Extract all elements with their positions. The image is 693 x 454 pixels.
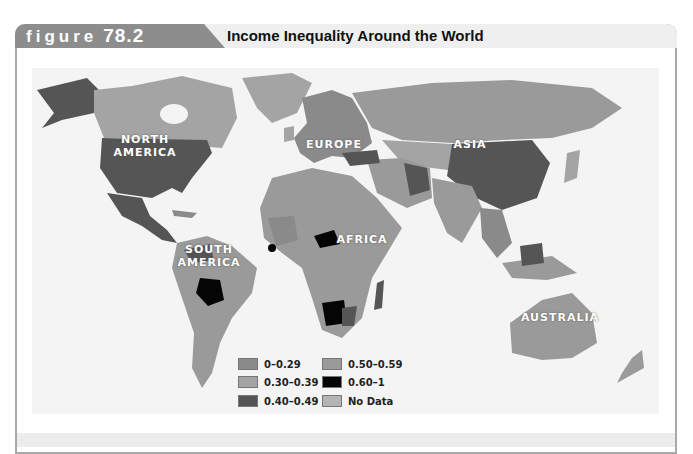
figure-title: Income Inequality Around the World	[227, 26, 484, 46]
legend-label: No Data	[348, 396, 393, 407]
legend-label: 0.40–0.49	[264, 396, 318, 407]
legend-label: 0.60–1	[348, 377, 385, 388]
caption-strip	[17, 433, 675, 447]
label-europe: EUROPE	[304, 138, 364, 151]
legend-swatch	[238, 395, 258, 407]
figure-label: figure78.2	[26, 26, 144, 46]
label-south-america: SOUTH AMERICA	[174, 243, 244, 269]
label-north-america: NORTH AMERICA	[110, 133, 180, 159]
legend-label: 0–0.29	[264, 359, 301, 370]
legend-label: 0.50–0.59	[348, 359, 402, 370]
label-asia: ASIA	[450, 138, 490, 151]
figure-number: 78.2	[103, 25, 144, 46]
legend-item: 0–0.29	[238, 356, 301, 372]
legend-item: 0.60–1	[322, 374, 385, 390]
legend-item: No Data	[322, 393, 393, 409]
legend-item: 0.30–0.39	[238, 374, 318, 390]
legend-swatch	[238, 376, 258, 388]
label-line: AMERICA	[174, 256, 244, 269]
label-line: AMERICA	[110, 146, 180, 159]
legend-item: 0.40–0.49	[238, 393, 318, 409]
legend-swatch	[322, 376, 342, 388]
label-line: SOUTH	[174, 243, 244, 256]
label-australia: AUSTRALIA	[520, 311, 600, 324]
legend-swatch	[322, 358, 342, 370]
figure-label-word: figure	[26, 27, 97, 46]
legend-swatch	[322, 395, 342, 407]
legend-item: 0.50–0.59	[322, 356, 402, 372]
legend-label: 0.30–0.39	[264, 377, 318, 388]
legend-swatch	[238, 358, 258, 370]
label-africa: AFRICA	[332, 233, 392, 246]
label-line: NORTH	[110, 133, 180, 146]
